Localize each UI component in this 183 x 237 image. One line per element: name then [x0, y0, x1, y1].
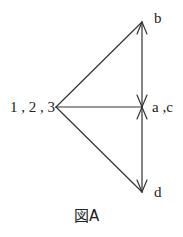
- figure-caption: 図A: [74, 209, 99, 224]
- graph-diagram: 1 , 2 , 3 b a ,c d 図A: [0, 0, 183, 237]
- node-label-left: 1 , 2 , 3: [10, 100, 55, 115]
- edge-123-to-b: [56, 22, 142, 107]
- node-label-middle: a ,c: [152, 100, 173, 115]
- node-label-top: b: [154, 11, 162, 26]
- node-label-bottom: d: [154, 185, 162, 200]
- graph-edges: [0, 0, 183, 237]
- edge-123-to-d: [56, 107, 142, 192]
